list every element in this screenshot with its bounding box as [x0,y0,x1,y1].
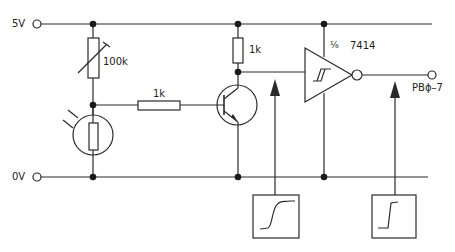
base-resistor-label: 1k [153,89,165,99]
collector-resistor-1k [233,38,243,63]
ground-label: 0V [12,172,25,182]
gate-fraction-label: ⅙ [330,41,339,50]
base-resistor-1k [138,101,180,110]
light-arrow-2 [63,120,73,128]
collector-resistor-label: 1k [249,45,261,55]
supply-label: 5V [12,19,25,29]
probe-arrow-after [390,81,400,98]
gate-part-label: 7414 [350,41,375,51]
ldr-resistor [89,123,98,150]
light-arrow-1 [68,110,78,118]
output-label: PBϕ–7 [412,83,443,93]
supply-terminal[interactable] [33,20,41,28]
circuit-schematic [0,0,455,252]
probe-arrow-before [270,79,280,96]
output-terminal[interactable] [428,71,436,79]
ground-terminal[interactable] [33,173,41,181]
variable-resistor-label: 100k [103,57,128,67]
junction-dots [90,21,328,181]
inverter-bubble [352,70,362,80]
waveform-box-after [372,195,416,238]
schmitt-trigger-inverter [305,48,352,102]
